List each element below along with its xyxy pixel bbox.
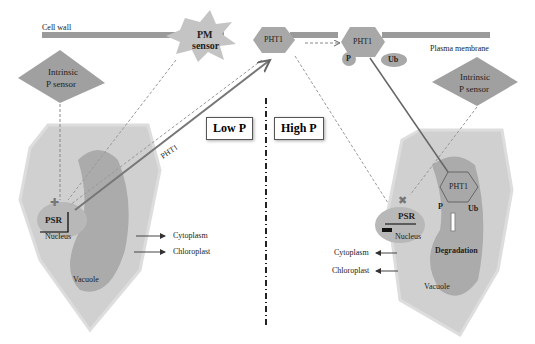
- right-psr-label: PSR: [398, 212, 415, 221]
- right-sensor-label-2: P sensor: [459, 85, 489, 94]
- phosphate-sensing-diagram: Cell wall Plasma membrane PM sensor PHT1…: [0, 0, 535, 344]
- right-ub-label: Ub: [468, 205, 478, 213]
- right-cytoplasm-label: Cytoplasm: [334, 249, 369, 257]
- right-nucleus-label: Nucleus: [395, 233, 421, 241]
- right-pht1-label: PHT1: [449, 183, 468, 191]
- pht1-left-label: PHT1: [264, 36, 283, 44]
- right-vacuole-label: Vacuole: [424, 283, 450, 291]
- left-nucleus-label: Nucleus: [45, 233, 71, 241]
- pht1-right-label: PHT1: [353, 38, 372, 46]
- left-cytoplasm-label: Cytoplasm: [173, 232, 208, 240]
- left-chloroplast-label: Chloroplast: [173, 248, 210, 256]
- degradation-label: Degradation: [435, 247, 478, 255]
- p-badge: P: [346, 55, 351, 63]
- right-chloroplast-label: Chloroplast: [332, 267, 369, 275]
- left-sensor-label-2: P sensor: [46, 80, 76, 89]
- pm-sensor-label-1: PM: [197, 30, 213, 40]
- left-psr-label: PSR: [45, 216, 62, 225]
- right-p-label: P: [438, 203, 443, 211]
- left-vacuole-label: Vacuole: [73, 276, 99, 284]
- right-sensor-label-1: Intrinsic: [460, 73, 490, 82]
- cell-wall-label: Cell wall: [42, 24, 71, 32]
- plus-icon: ✚: [50, 197, 59, 208]
- cross-icon: ✖: [398, 195, 407, 206]
- high-p-box: High P: [274, 117, 324, 140]
- plasma-membrane-label: Plasma membrane: [430, 45, 489, 53]
- left-sensor-label-1: Intrinsic: [48, 68, 78, 77]
- ub-badge: Ub: [388, 56, 398, 64]
- low-p-box: Low P: [206, 117, 253, 140]
- pm-sensor-label-2: sensor: [192, 41, 219, 51]
